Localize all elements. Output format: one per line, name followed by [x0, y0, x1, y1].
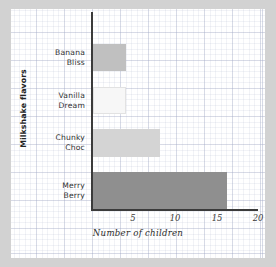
x-tick-label-5: 5	[120, 213, 146, 223]
x-tick-label-20: 20	[245, 213, 271, 223]
category-label-merry-berry: Merry Berry	[11, 181, 85, 200]
bar-chart-figure: Banana Bliss Vanilla Dream Chunky Choc M…	[11, 9, 265, 258]
x-axis-title: Number of children	[11, 228, 265, 238]
x-axis-line	[91, 209, 258, 211]
bar-banana-bliss	[93, 44, 126, 71]
x-tick-label-15: 15	[204, 213, 230, 223]
bar-vanilla-dream	[93, 87, 126, 114]
y-axis-title: Milkshake flavors	[19, 49, 28, 169]
plot-area: Banana Bliss Vanilla Dream Chunky Choc M…	[11, 9, 265, 258]
bar-chunky-choc	[93, 129, 160, 157]
bar-merry-berry	[93, 172, 227, 209]
x-tick-label-10: 10	[162, 213, 188, 223]
